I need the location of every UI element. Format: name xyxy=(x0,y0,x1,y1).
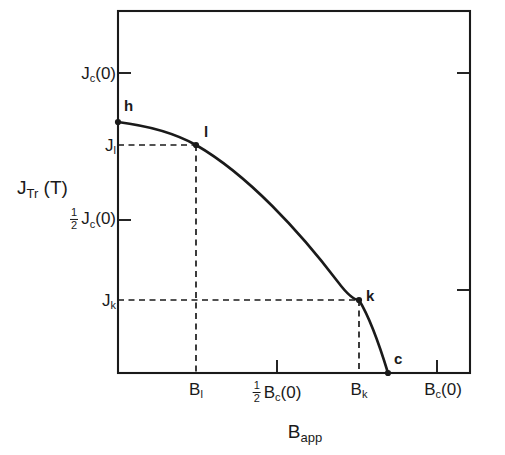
y-tick-label-jc0-arg: (0) xyxy=(95,64,116,83)
x-tick-label-bc0-arg: (0) xyxy=(441,380,462,399)
x-tick-label-half-bc0: 12Bc(0) xyxy=(253,381,302,405)
fraction-denominator: 2 xyxy=(70,219,78,232)
x-tick-label-bc0-subscript: c xyxy=(436,388,442,400)
annotation-point-l: l xyxy=(204,124,208,139)
x-tick-label-half-bc0-arg: (0) xyxy=(281,383,302,402)
y-tick-label-half-jc0: 12Jc(0) xyxy=(70,208,116,232)
x-axis-title-subscript: app xyxy=(300,430,322,445)
x-tick-label-bl-symbol: B xyxy=(189,380,200,399)
fraction-numerator: 1 xyxy=(70,207,78,219)
y-axis-title-symbol: J xyxy=(17,177,27,198)
marker-point-h xyxy=(115,119,121,125)
x-axis-title: Bapp xyxy=(288,422,322,441)
x-axis-title-symbol: B xyxy=(288,421,301,442)
fraction-numerator: 1 xyxy=(253,380,261,392)
one-half-fraction-y: 12 xyxy=(70,207,78,231)
x-tick-label-half-bc0-symbol: B xyxy=(264,383,275,402)
x-tick-label-half-bc0-subscript: c xyxy=(275,391,281,403)
x-tick-label-bk: Bk xyxy=(351,381,368,398)
annotation-point-h: h xyxy=(124,98,133,113)
marker-point-c xyxy=(385,370,391,376)
y-tick-label-jc0-symbol: J xyxy=(81,64,90,83)
y-tick-label-jk-subscript: k xyxy=(111,299,117,311)
x-tick-label-bk-symbol: B xyxy=(351,380,362,399)
y-axis-title-subscript: Tr xyxy=(27,186,39,201)
y-tick-label-half-jc0-symbol: J xyxy=(81,209,90,228)
y-tick-label-half-jc0-arg: (0) xyxy=(95,209,116,228)
x-tick-label-bc0: Bc(0) xyxy=(424,381,462,398)
y-tick-label-jl-symbol: J xyxy=(105,136,114,155)
y-tick-label-jl-subscript: l xyxy=(114,144,116,156)
y-tick-label-jk-symbol: J xyxy=(102,291,111,310)
y-tick-label-half-jc0-subscript: c xyxy=(90,217,96,229)
annotation-point-k: k xyxy=(366,288,374,303)
y-tick-label-jl: Jl xyxy=(105,137,116,154)
x-tick-label-bc0-symbol: B xyxy=(424,380,435,399)
annotation-point-c: c xyxy=(394,351,402,366)
y-axis-title: JTr (T) xyxy=(17,178,68,197)
plot-frame xyxy=(118,11,470,373)
x-tick-label-bl: Bl xyxy=(189,381,203,398)
figure-container: Jc(0) Jl 12Jc(0) Jk Bl 12Bc(0) Bk Bc(0) … xyxy=(0,0,505,455)
x-tick-label-bk-subscript: k xyxy=(362,388,368,400)
x-tick-label-bl-subscript: l xyxy=(200,388,202,400)
marker-point-l xyxy=(193,142,199,148)
y-tick-label-jc0-subscript: c xyxy=(90,72,96,84)
y-tick-label-jc0: Jc(0) xyxy=(81,65,116,82)
y-tick-label-jk: Jk xyxy=(102,292,116,309)
one-half-fraction-x: 12 xyxy=(253,380,261,404)
fraction-denominator: 2 xyxy=(253,392,261,405)
marker-point-k xyxy=(356,297,362,303)
y-axis-title-unit: (T) xyxy=(44,177,68,198)
